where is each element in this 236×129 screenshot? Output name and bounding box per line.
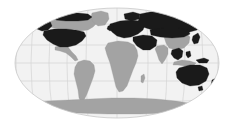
- world-map-figure: [0, 0, 236, 129]
- world-map-svg: [0, 0, 236, 129]
- land-tasmania: [198, 86, 203, 91]
